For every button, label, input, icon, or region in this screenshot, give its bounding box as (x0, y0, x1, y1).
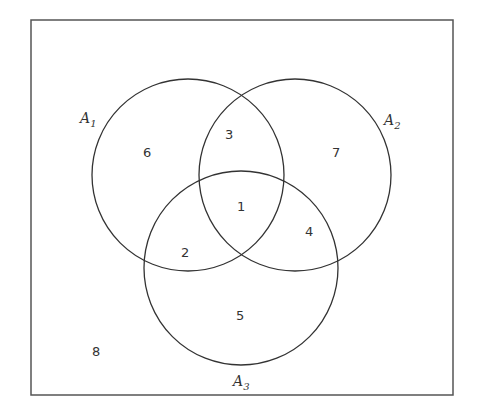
region-a1-a3: 2 (181, 245, 189, 260)
circle-a2 (199, 79, 391, 271)
region-a2-only: 7 (332, 145, 340, 160)
region-a3-only: 5 (236, 308, 244, 323)
set-label-a2: A2 (382, 112, 401, 131)
region-outside: 8 (92, 344, 100, 359)
region-a2-a3: 4 (305, 224, 313, 239)
region-all-three: 1 (237, 199, 245, 214)
set-label-a3: A3 (231, 373, 250, 392)
circle-a1 (92, 79, 284, 271)
venn-diagram: A1 A2 A3 6 3 7 1 2 4 5 8 (0, 0, 483, 418)
set-label-a1: A1 (78, 110, 97, 129)
region-a1-only: 6 (143, 145, 151, 160)
region-a1-a2: 3 (225, 127, 233, 142)
